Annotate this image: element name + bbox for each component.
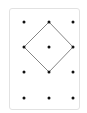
peg-dot	[23, 21, 26, 24]
peg-dot	[48, 71, 51, 74]
peg-dot	[72, 97, 75, 100]
peg-dot	[23, 97, 26, 100]
geoboard-diagram	[0, 0, 87, 113]
peg-dot	[72, 21, 75, 24]
peg-dot	[23, 71, 26, 74]
peg-dot	[23, 46, 26, 49]
peg-dot	[48, 46, 51, 49]
peg-dot	[72, 71, 75, 74]
peg-dot	[48, 21, 51, 24]
peg-dot	[48, 97, 51, 100]
peg-dot	[72, 46, 75, 49]
